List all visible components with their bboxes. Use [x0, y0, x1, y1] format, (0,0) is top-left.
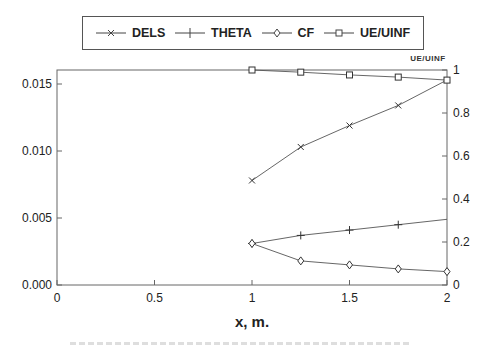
square-marker-icon [298, 69, 304, 75]
right-y-tick-label: 0 [453, 278, 460, 292]
left-y-tick-label: 0.015 [22, 77, 52, 91]
plus-marker-icon [297, 231, 305, 239]
line-chart: 00.511.520.0000.0050.0100.01500.20.40.60… [0, 0, 483, 345]
left-y-tick-label: 0.010 [22, 144, 52, 158]
plot-border [57, 70, 447, 285]
series-line [252, 80, 447, 181]
x-marker-icon [249, 177, 255, 183]
series-theta [248, 219, 447, 247]
data-series [248, 67, 450, 276]
plus-marker-icon [346, 226, 354, 234]
x-tick-label: 1 [249, 291, 256, 305]
right-y-tick-label: 0.2 [453, 235, 470, 249]
diamond-marker-icon [395, 265, 401, 273]
x-tick-label: 1.5 [341, 291, 358, 305]
x-marker-icon [298, 144, 304, 150]
left-y-tick-label: 0.005 [22, 211, 52, 225]
x-marker-icon [395, 102, 401, 108]
right-y-tick-label: 1 [453, 63, 460, 77]
series-ue-uinf [249, 67, 450, 83]
left-y-tick-label: 0.000 [22, 278, 52, 292]
x-tick-label: 2 [444, 291, 451, 305]
diamond-marker-icon [249, 239, 255, 247]
square-marker-icon [444, 77, 450, 83]
right-y-tick-label: 0.8 [453, 106, 470, 120]
x-marker-icon [347, 123, 353, 129]
square-marker-icon [249, 67, 255, 73]
x-tick-label: 0.5 [146, 291, 163, 305]
x-axis-title: x, m. [235, 313, 269, 330]
diamond-marker-icon [444, 268, 450, 276]
x-tick-label: 0 [54, 291, 61, 305]
square-marker-icon [347, 72, 353, 78]
diamond-marker-icon [298, 257, 304, 265]
plot-area [57, 70, 447, 285]
square-marker-icon [395, 74, 401, 80]
series-dels [249, 77, 450, 183]
figure-caption-clipped [70, 340, 410, 345]
diamond-marker-icon [347, 261, 353, 269]
series-cf [249, 239, 450, 275]
plus-marker-icon [394, 221, 402, 229]
right-y-tick-label: 0.6 [453, 149, 470, 163]
right-y-tick-label: 0.4 [453, 192, 470, 206]
right-axis-title: UE/UINF [410, 54, 446, 63]
